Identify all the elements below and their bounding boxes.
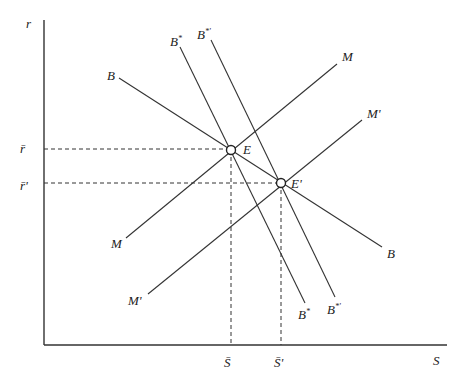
equilibrium-E-prime-marker bbox=[277, 179, 286, 188]
curve-M-prime bbox=[148, 120, 362, 294]
equilibrium-E-marker bbox=[227, 146, 236, 155]
label-M-prime-start: M' bbox=[127, 293, 142, 308]
label-B-star-prime-start: B*' bbox=[197, 27, 211, 42]
curve-B-star bbox=[180, 47, 305, 303]
label-E: E bbox=[242, 142, 251, 157]
curve-B bbox=[119, 78, 382, 247]
r-bar-label: r̄ bbox=[20, 141, 26, 156]
label-B-star-start: B* bbox=[170, 34, 182, 49]
r-bar-prime-label: r̄' bbox=[20, 178, 28, 193]
label-B-end: B bbox=[387, 246, 395, 261]
label-B-star-end: B* bbox=[298, 307, 310, 322]
diagram-canvas: r S B B B* B* B*' B*' M M M' M' E E' r̄ … bbox=[0, 0, 467, 391]
s-bar-prime-label: S̄' bbox=[274, 355, 284, 370]
label-B-start: B bbox=[107, 68, 115, 83]
label-M-prime-end: M' bbox=[366, 106, 381, 121]
label-M-end: M bbox=[341, 49, 354, 64]
x-axis-label: S bbox=[433, 353, 440, 368]
label-M-start: M bbox=[110, 236, 123, 251]
label-E-prime: E' bbox=[290, 176, 302, 191]
y-axis-label: r bbox=[26, 16, 32, 31]
s-bar-label: S̄ bbox=[224, 355, 231, 370]
label-B-star-prime-end: B*' bbox=[327, 302, 341, 317]
curve-B-star-prime bbox=[211, 40, 335, 297]
